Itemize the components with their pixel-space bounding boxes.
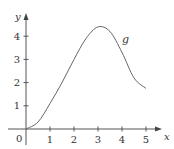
x-axis-label: x	[164, 131, 170, 142]
x-axis-arrow-icon	[155, 127, 162, 132]
x-tick-label: 4	[119, 134, 125, 145]
function-graph: 12345 1234 x y 0 g	[0, 0, 174, 149]
curve-label: g	[122, 33, 129, 46]
y-axis	[24, 13, 29, 145]
y-axis-label: y	[14, 11, 21, 22]
x-tick-label: 3	[95, 134, 101, 145]
y-tick-label: 1	[14, 100, 20, 111]
y-tick-label: 2	[14, 77, 20, 88]
x-tick-label: 1	[47, 134, 53, 145]
y-tick-label: 4	[14, 31, 20, 42]
x-tick-label: 5	[143, 134, 149, 145]
y-axis-arrow-icon	[24, 13, 29, 20]
y-tick-label: 3	[14, 54, 20, 65]
origin-label: 0	[16, 133, 22, 144]
x-tick-label: 2	[71, 134, 77, 145]
